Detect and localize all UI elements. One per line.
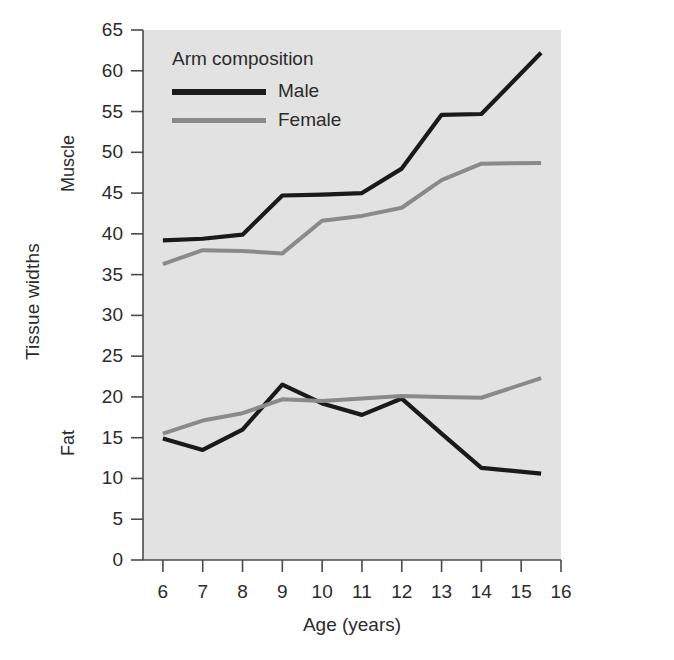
y-tick-label: 0	[83, 550, 123, 569]
y-tick-label: 40	[83, 224, 123, 243]
x-tick-label: 6	[148, 582, 178, 601]
y-axis-title: Tissue widths	[22, 243, 44, 360]
x-tick-label: 7	[188, 582, 218, 601]
x-tick-label: 16	[546, 582, 576, 601]
y-tick-label: 55	[83, 102, 123, 121]
x-tick-label: 12	[387, 582, 417, 601]
legend-title: Arm composition	[172, 48, 314, 70]
x-tick-label: 11	[347, 582, 377, 601]
x-axis-title: Age (years)	[282, 614, 422, 636]
y-tick-label: 30	[83, 305, 123, 324]
y-tick-label: 50	[83, 142, 123, 161]
legend-label-male: Male	[278, 80, 319, 102]
y-axis-ticks	[131, 30, 143, 560]
x-tick-label: 14	[466, 582, 496, 601]
legend-label-female: Female	[278, 109, 341, 131]
x-axis-ticks	[163, 560, 561, 572]
x-tick-label: 10	[307, 582, 337, 601]
y-tick-label: 25	[83, 346, 123, 365]
y-tick-label: 60	[83, 61, 123, 80]
legend-swatch-male	[172, 89, 266, 95]
y-tick-label: 5	[83, 509, 123, 528]
y-tick-label: 10	[83, 468, 123, 487]
x-tick-label: 15	[506, 582, 536, 601]
y-tick-label: 45	[83, 183, 123, 202]
chart-figure: Tissue widths Muscle Fat Age (years) 051…	[0, 0, 674, 660]
y-tick-label: 20	[83, 387, 123, 406]
x-tick-label: 9	[267, 582, 297, 601]
x-tick-label: 13	[427, 582, 457, 601]
x-tick-label: 8	[228, 582, 258, 601]
y-axis-band-label-fat: Fat	[58, 430, 79, 456]
data-series-lines	[163, 53, 541, 474]
y-axis-band-label-muscle: Muscle	[58, 135, 79, 192]
y-tick-label: 35	[83, 265, 123, 284]
y-tick-label: 65	[83, 20, 123, 39]
y-tick-label: 15	[83, 428, 123, 447]
legend-swatch-female	[172, 118, 266, 123]
